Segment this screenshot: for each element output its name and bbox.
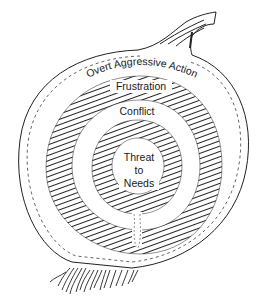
onion-illustration: Overt Aggressive Action <box>0 0 265 299</box>
label-conflict: Conflict <box>115 105 159 118</box>
onion-diagram: Overt Aggressive Action Frustration Conf… <box>0 0 265 299</box>
label-threat-to-needs: Threat to Needs <box>119 151 159 190</box>
label-threat-line-2: to <box>119 164 159 177</box>
stem-icon <box>138 12 216 55</box>
label-frustration: Frustration <box>110 80 172 93</box>
label-threat-line-1: Threat <box>119 151 159 164</box>
label-threat-line-3: Needs <box>119 177 159 190</box>
roots-icon <box>50 268 138 294</box>
